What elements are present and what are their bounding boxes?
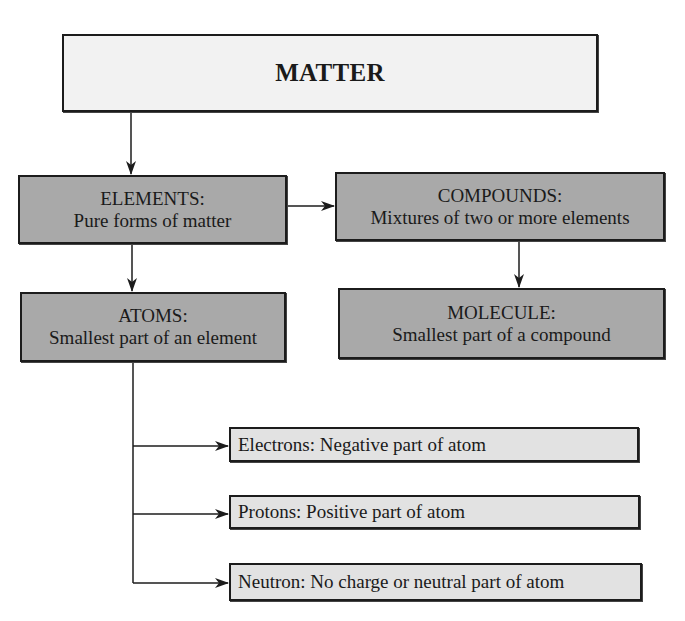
atoms-box: ATOMS: Smallest part of an element — [20, 292, 286, 362]
electrons-label: Electrons: Negative part of atom — [238, 434, 486, 456]
atoms-description: Smallest part of an element — [49, 327, 257, 349]
matter-title: MATTER — [275, 59, 385, 88]
molecule-heading: MOLECULE: — [447, 302, 556, 324]
elements-description: Pure forms of matter — [74, 210, 232, 232]
atoms-heading: ATOMS: — [118, 305, 187, 327]
neutron-box: Neutron: No charge or neutral part of at… — [229, 563, 642, 601]
matter-box: MATTER — [62, 34, 598, 112]
compounds-heading: COMPOUNDS: — [438, 185, 563, 207]
elements-box: ELEMENTS: Pure forms of matter — [18, 175, 287, 244]
protons-box: Protons: Positive part of atom — [229, 495, 640, 529]
compounds-description: Mixtures of two or more elements — [370, 207, 629, 229]
compounds-box: COMPOUNDS: Mixtures of two or more eleme… — [335, 172, 665, 241]
electrons-box: Electrons: Negative part of atom — [229, 427, 639, 462]
elements-heading: ELEMENTS: — [100, 188, 205, 210]
protons-label: Protons: Positive part of atom — [238, 501, 465, 523]
molecule-description: Smallest part of a compound — [392, 324, 610, 346]
molecule-box: MOLECULE: Smallest part of a compound — [338, 288, 665, 359]
neutron-label: Neutron: No charge or neutral part of at… — [238, 571, 564, 593]
